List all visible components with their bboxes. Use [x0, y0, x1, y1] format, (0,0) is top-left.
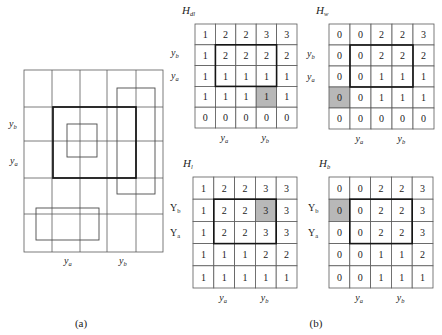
- cell-value: 0: [337, 205, 342, 216]
- cell-value: 1: [222, 272, 227, 283]
- cell-value: 1: [203, 91, 208, 102]
- panel-a-grid-lines: [24, 70, 163, 252]
- cell-value: 1: [421, 71, 426, 82]
- cell-value: 1: [223, 91, 228, 102]
- row-label-yb: Yb: [308, 202, 318, 214]
- cell-value: 1: [222, 249, 227, 260]
- cell-value: 2: [222, 183, 227, 194]
- cell-value: 1: [201, 205, 206, 216]
- cell-value: 1: [399, 249, 404, 260]
- cell-value: 0: [421, 113, 426, 124]
- col-label-ya: ya: [354, 292, 363, 304]
- cell-value: 0: [337, 71, 342, 82]
- cell-value: 2: [399, 183, 404, 194]
- cell-value: 2: [243, 205, 248, 216]
- cell-value: 1: [421, 92, 426, 103]
- cell-value: 0: [358, 71, 363, 82]
- row-label-yb: Yb: [170, 202, 180, 214]
- cell-value: 0: [358, 92, 363, 103]
- cell-value: 2: [223, 29, 228, 40]
- cell-value: 3: [421, 29, 426, 40]
- row-label-yb: yb: [170, 47, 179, 59]
- col-label-ya: ya: [63, 255, 72, 267]
- cell-value: 3: [263, 227, 268, 238]
- col-label-yb: yb: [260, 292, 269, 304]
- cell-value: 2: [379, 183, 384, 194]
- cell-value: 2: [284, 50, 289, 61]
- cell-value: 3: [284, 29, 289, 40]
- cell-value: 1: [400, 71, 405, 82]
- cell-value: 1: [379, 92, 384, 103]
- cell-value: 0: [337, 183, 342, 194]
- matrix-h-w: Hw0022300222001110011100000ybyayayb: [306, 4, 434, 145]
- cell-value: 2: [400, 50, 405, 61]
- cell-value: 2: [263, 249, 268, 260]
- matrix-h-dl: Hdl1223312222111111111100000ybyayayb: [170, 4, 297, 144]
- cell-value: 1: [244, 91, 249, 102]
- col-label-yb: yb: [260, 132, 269, 144]
- cell-value: 1: [379, 272, 384, 283]
- cell-value: 0: [337, 272, 342, 283]
- cell-value: 0: [337, 29, 342, 40]
- cell-value: 0: [358, 29, 363, 40]
- cell-value: 2: [400, 29, 405, 40]
- cell-value: 0: [358, 183, 363, 194]
- cell-value: 2: [421, 50, 426, 61]
- cell-value: 2: [379, 227, 384, 238]
- cell-value: 1: [284, 71, 289, 82]
- col-label-yb: yb: [396, 292, 405, 304]
- cell-value: 2: [399, 227, 404, 238]
- cell-value: 0: [244, 112, 249, 123]
- cell-value: 1: [243, 249, 248, 260]
- cell-value: 3: [263, 183, 268, 194]
- cell-value: 1: [201, 227, 206, 238]
- col-label-ya: ya: [218, 292, 227, 304]
- cell-value: 0: [358, 272, 363, 283]
- cell-value: 2: [243, 227, 248, 238]
- cell-value: 3: [420, 183, 425, 194]
- cell-value: 2: [379, 29, 384, 40]
- col-label-yb: yb: [397, 133, 406, 145]
- row-label-ya: ya: [306, 71, 315, 83]
- cell-value: 1: [243, 272, 248, 283]
- cell-value: 3: [420, 205, 425, 216]
- cell-value: 2: [223, 50, 228, 61]
- cell-value: 0: [358, 227, 363, 238]
- cell-value: 2: [222, 205, 227, 216]
- cell-value: 0: [337, 227, 342, 238]
- cell-value: 0: [337, 249, 342, 260]
- cell-value: 2: [244, 29, 249, 40]
- cell-value: 1: [201, 272, 206, 283]
- cell-value: 0: [337, 92, 342, 103]
- panel-a: yb ya ya yb (a): [8, 70, 163, 330]
- cell-value: 1: [201, 183, 206, 194]
- figure: yb ya ya yb (a) Hdl122331222211111111110…: [0, 0, 442, 335]
- row-label-ya: Ya: [308, 227, 318, 239]
- panel-b: Hdl1223312222111111111100000ybyayaybHw00…: [170, 4, 434, 304]
- cell-value: 0: [400, 113, 405, 124]
- cell-value: 0: [379, 113, 384, 124]
- cell-value: 2: [284, 249, 289, 260]
- bottom-wide-rectangle: [36, 208, 99, 240]
- matrix-title: Hb: [318, 157, 331, 170]
- cell-value: 0: [358, 205, 363, 216]
- small-inner-rectangle: [67, 124, 97, 157]
- row-label-ya: ya: [9, 155, 18, 167]
- cell-value: 1: [244, 71, 249, 82]
- cell-value: 1: [263, 272, 268, 283]
- cell-value: 1: [203, 71, 208, 82]
- cell-value: 1: [201, 249, 206, 260]
- col-label-ya: ya: [220, 132, 229, 144]
- cell-value: 3: [420, 227, 425, 238]
- cell-value: 0: [358, 249, 363, 260]
- cell-value: 0: [203, 112, 208, 123]
- cell-value: 1: [400, 92, 405, 103]
- cell-value: 1: [379, 71, 384, 82]
- cell-value: 0: [284, 112, 289, 123]
- cell-value: 1: [379, 249, 384, 260]
- cell-value: 0: [337, 113, 342, 124]
- caption-b: (b): [310, 317, 323, 330]
- matrix-title: Hl: [182, 157, 193, 170]
- cell-value: 1: [203, 50, 208, 61]
- cell-value: 3: [284, 227, 289, 238]
